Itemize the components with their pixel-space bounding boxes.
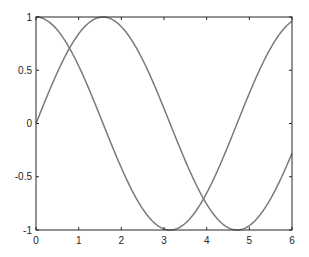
x-tick-label: 3 bbox=[161, 235, 167, 246]
x-axis-ticks: 0123456 bbox=[33, 17, 295, 246]
x-tick-label: 2 bbox=[119, 235, 125, 246]
axes-box bbox=[36, 17, 292, 230]
x-tick-label: 6 bbox=[289, 235, 295, 246]
x-tick-label: 5 bbox=[247, 235, 253, 246]
y-tick-label: 0 bbox=[26, 118, 32, 129]
y-tick-label: -0.5 bbox=[15, 171, 33, 182]
y-tick-label: 1 bbox=[26, 12, 32, 23]
x-tick-label: 0 bbox=[33, 235, 39, 246]
y-axis-ticks: 10.50-0.5-1 bbox=[15, 12, 292, 236]
y-tick-label: -1 bbox=[23, 225, 32, 236]
line-chart: 0123456 10.50-0.5-1 bbox=[0, 0, 309, 257]
y-tick-label: 0.5 bbox=[18, 65, 32, 76]
series-cos bbox=[36, 17, 292, 230]
series-sin bbox=[36, 17, 292, 230]
x-tick-label: 1 bbox=[76, 235, 82, 246]
x-tick-label: 4 bbox=[204, 235, 210, 246]
plot-lines bbox=[36, 17, 292, 230]
